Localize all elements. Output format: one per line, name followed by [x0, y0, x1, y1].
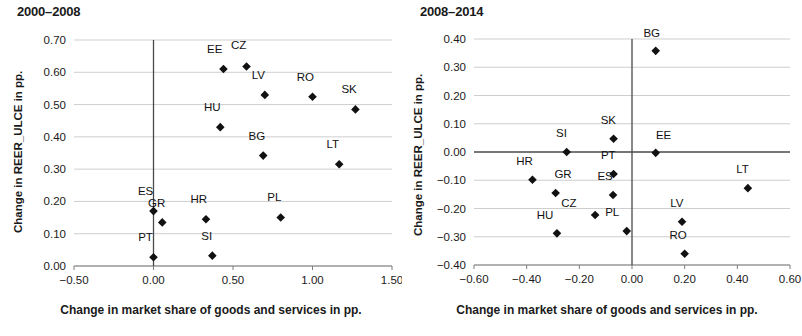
- x-tick-label: 0.60: [779, 273, 801, 285]
- data-point-marker: [149, 253, 158, 262]
- data-point-label: CZ: [561, 197, 576, 209]
- x-tick-label: −0.50: [59, 274, 88, 286]
- data-point-label: PT: [138, 231, 153, 243]
- y-tick-label: 0.30: [444, 61, 466, 73]
- data-point-label: EE: [207, 43, 223, 55]
- y-tick-label: −0.10: [437, 174, 466, 186]
- data-point-label: PL: [605, 206, 620, 218]
- data-point-label: GR: [554, 168, 571, 180]
- scatter-plot-left: 0.000.100.200.300.400.500.600.70−0.500.0…: [0, 0, 402, 300]
- data-point-marker: [609, 134, 618, 143]
- data-point-label: RO: [297, 71, 314, 83]
- x-tick-label: −0.20: [565, 273, 594, 285]
- data-point-marker: [261, 91, 270, 100]
- scatter-plot-right: −0.40−0.30−0.20−0.100.000.100.200.300.40…: [402, 0, 802, 300]
- y-tick-label: −0.30: [437, 231, 466, 243]
- data-point-marker: [553, 229, 562, 238]
- data-point-marker: [609, 191, 618, 200]
- y-tick-label: 0.40: [44, 131, 66, 143]
- data-point-label: LV: [670, 197, 684, 209]
- data-point-label: GR: [148, 197, 165, 209]
- data-point-marker: [242, 62, 251, 71]
- data-point-marker: [158, 218, 167, 227]
- data-point-label: BG: [249, 130, 266, 142]
- x-tick-label: 0.50: [222, 274, 244, 286]
- data-point-marker: [562, 148, 571, 157]
- x-tick-label: 0.40: [726, 273, 748, 285]
- data-point-label: LT: [327, 138, 340, 150]
- y-tick-label: 0.60: [44, 66, 66, 78]
- data-point-label: PL: [267, 191, 282, 203]
- data-point-marker: [551, 189, 560, 198]
- data-point-marker: [622, 227, 631, 236]
- x-tick-label: 0.00: [621, 273, 643, 285]
- y-tick-label: −0.20: [437, 203, 466, 215]
- y-tick-label: 0.30: [44, 163, 66, 175]
- data-point-marker: [678, 217, 687, 226]
- data-point-label: PT: [601, 149, 616, 161]
- data-point-label: HR: [516, 155, 533, 167]
- data-point-marker: [335, 160, 344, 169]
- y-tick-label: 0.50: [44, 99, 66, 111]
- y-tick-label: 0.20: [44, 195, 66, 207]
- y-tick-label: 0.70: [44, 34, 66, 46]
- data-point-label: HU: [537, 209, 554, 221]
- y-tick-label: −0.40: [437, 259, 466, 271]
- data-point-label: SK: [341, 83, 357, 95]
- data-point-label: ES: [138, 185, 154, 197]
- data-point-label: HU: [204, 101, 221, 113]
- data-point-label: LT: [736, 163, 749, 175]
- data-point-label: SI: [201, 230, 212, 242]
- chart-panel-2000-2008: 2000–2008 Change in REER_ULCE in pp. Cha…: [0, 0, 402, 336]
- data-point-marker: [202, 215, 211, 224]
- y-tick-label: 0.00: [444, 146, 466, 158]
- data-point-label: RO: [669, 229, 686, 241]
- x-tick-label: 1.00: [301, 274, 323, 286]
- figure-container: 2000–2008 Change in REER_ULCE in pp. Cha…: [0, 0, 802, 336]
- data-point-label: CZ: [231, 39, 246, 51]
- data-point-marker: [216, 123, 225, 132]
- data-point-marker: [208, 251, 217, 260]
- data-point-marker: [591, 211, 600, 220]
- data-point-label: BG: [643, 27, 660, 39]
- data-point-marker: [528, 175, 537, 184]
- data-point-label: SI: [556, 127, 567, 139]
- chart-panel-2008-2014: 2008–2014 Change in REER_ULCE in pp. Cha…: [402, 0, 802, 336]
- y-tick-label: 0.10: [44, 228, 66, 240]
- x-tick-label: 1.50: [381, 274, 402, 286]
- data-point-label: HR: [191, 193, 208, 205]
- y-tick-label: 0.00: [44, 260, 66, 272]
- data-point-marker: [276, 213, 285, 222]
- data-point-marker: [680, 249, 689, 258]
- x-axis-title-left: Change in market share of goods and serv…: [26, 303, 396, 317]
- data-point-label: EE: [656, 129, 672, 141]
- data-point-marker: [651, 149, 660, 158]
- x-tick-label: 0.00: [142, 274, 164, 286]
- data-point-label: SK: [601, 114, 617, 126]
- y-tick-label: 0.40: [444, 33, 466, 45]
- x-tick-label: −0.40: [512, 273, 541, 285]
- data-point-marker: [651, 47, 660, 56]
- y-tick-label: 0.10: [444, 118, 466, 130]
- x-axis-title-right: Change in market share of goods and serv…: [420, 303, 794, 317]
- data-point-label: LV: [252, 69, 266, 81]
- data-point-marker: [351, 105, 360, 114]
- data-point-label: ES: [597, 170, 613, 182]
- data-point-marker: [308, 93, 317, 102]
- y-tick-label: 0.20: [444, 90, 466, 102]
- x-tick-label: −0.60: [459, 273, 488, 285]
- x-tick-label: 0.20: [673, 273, 695, 285]
- data-point-marker: [259, 151, 268, 160]
- data-point-marker: [744, 184, 753, 193]
